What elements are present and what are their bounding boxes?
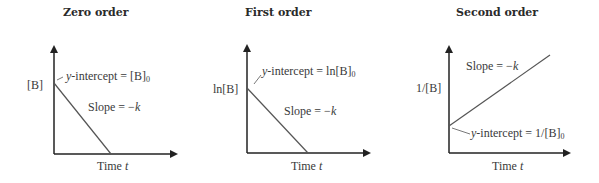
- y-axis-label: 1/[B]: [416, 81, 441, 95]
- kinetics-plots: Zero order [B] y-intercept = [B]0 Slope …: [0, 0, 599, 183]
- intercept-leader: [452, 128, 470, 134]
- panel-title: Second order: [456, 6, 538, 19]
- intercept-annotation: y-intercept = 1/[B]0: [470, 126, 564, 141]
- x-axis-label: Time t: [97, 159, 129, 173]
- x-axis-label: Time t: [291, 159, 323, 173]
- data-line: [54, 83, 111, 154]
- panel-title: Zero order: [63, 6, 129, 19]
- panel-title: First order: [245, 6, 312, 19]
- slope-annotation: Slope = −k: [284, 104, 337, 118]
- slope-annotation: Slope = −k: [88, 100, 141, 114]
- intercept-annotation: y-intercept = ln[B]0: [261, 64, 355, 79]
- data-line: [247, 88, 308, 153]
- x-axis-label: Time t: [492, 159, 524, 173]
- intercept-annotation: y-intercept = [B]0: [65, 69, 150, 84]
- intercept-leader: [254, 75, 261, 84]
- intercept-leader: [57, 77, 63, 80]
- y-axis-label: ln[B]: [213, 82, 238, 96]
- y-axis-label: [B]: [27, 78, 43, 92]
- panel-second-order: Second order 1/[B] Slope = −k y-intercep…: [416, 6, 569, 173]
- panel-zero-order: Zero order [B] y-intercept = [B]0 Slope …: [27, 6, 176, 173]
- slope-annotation: Slope = −k: [466, 59, 519, 73]
- panel-first-order: First order ln[B] y-intercept = ln[B]0 S…: [213, 6, 369, 173]
